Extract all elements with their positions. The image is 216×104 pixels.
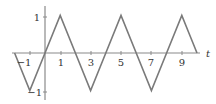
x-tick-label: −1 xyxy=(17,57,32,68)
x-tick-label: 3 xyxy=(88,57,94,68)
x-tick-label: 7 xyxy=(148,57,154,68)
x-tick-label: 9 xyxy=(179,57,185,68)
y-tick-label: −1 xyxy=(27,87,42,98)
triangle-wave-chart: −1 1 3 5 7 9 1 −1 t xyxy=(0,0,216,104)
x-tick-label: 1 xyxy=(58,57,64,68)
x-axis-label: t xyxy=(206,48,211,59)
x-tick-label: 5 xyxy=(118,57,124,68)
chart-svg: −1 1 3 5 7 9 1 −1 t xyxy=(0,0,216,104)
y-tick-label: 1 xyxy=(34,12,40,23)
